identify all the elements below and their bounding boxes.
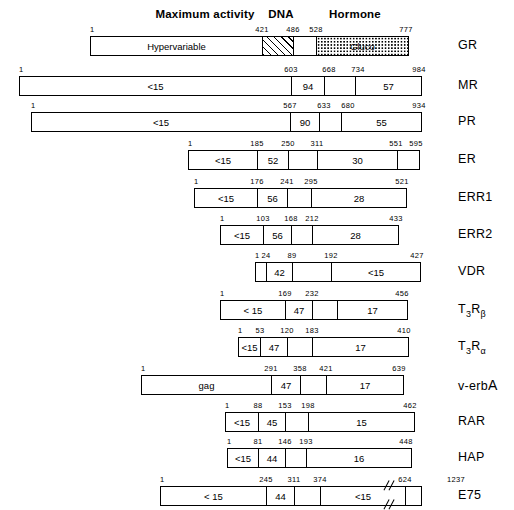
domain-segment: < 15 — [161, 487, 267, 505]
domain-segment: 15 — [309, 413, 414, 431]
domain-segment — [256, 263, 267, 281]
residue-tick: 311 — [288, 475, 301, 484]
column-header-maximum-activity: Maximum activity — [155, 8, 254, 20]
segment-label: 17 — [367, 305, 378, 316]
domain-segment: 47 — [261, 338, 288, 356]
receptor-label-HAP: HAP — [458, 450, 485, 464]
residue-tick: 1237 — [447, 475, 465, 484]
residue-tick: 183 — [305, 326, 318, 335]
domain-segment: 45 — [259, 413, 286, 431]
segment-label: 45 — [267, 417, 278, 428]
domain-segment: <15 — [189, 151, 258, 169]
residue-tick: 1 — [160, 475, 164, 484]
domain-bar-RAR: <154515 — [225, 412, 415, 432]
domain-segment: <15 — [239, 338, 261, 356]
residue-tick: 551 — [389, 139, 402, 148]
segment-label: <15 — [147, 81, 163, 92]
domain-bar-GR: HypervariableGluco — [90, 36, 409, 56]
residue-tick: 185 — [250, 139, 263, 148]
segment-label: 57 — [383, 81, 394, 92]
residue-tick: 103 — [256, 214, 269, 223]
segment-label: <15 — [368, 267, 384, 278]
domain-segment: 17 — [327, 376, 403, 394]
residue-tick: 311 — [311, 139, 324, 148]
segment-label: 52 — [268, 155, 279, 166]
domain-segment — [288, 338, 313, 356]
domain-segment: 56 — [258, 189, 288, 207]
domain-segment: 42 — [267, 263, 293, 281]
residue-tick: 88 — [254, 401, 263, 410]
domain-bar-T3Ralpha: <154717 — [238, 337, 409, 357]
residue-tick: 1 — [227, 437, 231, 446]
domain-segment: 16 — [307, 449, 411, 467]
residue-tick: 250 — [281, 139, 294, 148]
residue-tick: 456 — [395, 289, 408, 298]
residue-tick: 1 — [238, 326, 242, 335]
segment-label: 44 — [267, 453, 278, 464]
domain-segment: <15 — [228, 449, 259, 467]
domain-segment — [320, 113, 342, 131]
domain-segment: 94 — [292, 77, 325, 95]
domain-segment: 17 — [313, 338, 408, 356]
segment-label: <15 — [153, 117, 169, 128]
domain-segment — [301, 376, 327, 394]
domain-bar-MR: <159457 — [19, 76, 422, 96]
segment-label: 94 — [303, 81, 314, 92]
segment-label: Gluco — [349, 41, 376, 52]
residue-tick: 448 — [399, 437, 412, 446]
domain-segment — [295, 487, 321, 505]
residue-tick: 603 — [284, 65, 297, 74]
domain-segment: 17 — [338, 301, 407, 319]
residue-tick: 421 — [319, 364, 332, 373]
residue-tick: 291 — [264, 364, 277, 373]
residue-tick: 358 — [293, 364, 306, 373]
residue-tick: 212 — [305, 214, 318, 223]
receptor-label-RAR: RAR — [458, 414, 485, 428]
domain-segment — [313, 301, 338, 319]
residue-tick: 193 — [299, 437, 312, 446]
receptor-label-ER: ER — [458, 152, 476, 166]
residue-tick: 1 — [19, 65, 23, 74]
domain-segment: Gluco — [317, 37, 408, 55]
residue-tick: 668 — [322, 65, 335, 74]
domain-segment — [294, 37, 317, 55]
segment-label: 16 — [354, 453, 365, 464]
column-header-hormone: Hormone — [329, 8, 381, 20]
domain-bar-HAP: <154416 — [227, 448, 412, 468]
domain-segment: < 15 — [221, 301, 286, 319]
segment-label: <15 — [355, 491, 371, 502]
domain-segment: 44 — [259, 449, 286, 467]
residue-tick: 1 — [194, 177, 198, 186]
domain-segment: 30 — [318, 151, 398, 169]
domain-segment — [286, 413, 309, 431]
domain-segment: 90 — [291, 113, 320, 131]
residue-tick: 1 — [31, 101, 35, 110]
residue-tick: 1 — [141, 364, 145, 373]
residue-tick: 198 — [301, 401, 314, 410]
segment-label: <15 — [235, 453, 251, 464]
domain-bar-ERR1: <155628 — [194, 188, 407, 208]
receptor-label-GR: GR — [458, 38, 477, 52]
residue-tick: 421 — [255, 25, 268, 34]
segment-label: gag — [199, 380, 215, 391]
receptor-label-ERR2: ERR2 — [458, 227, 493, 241]
domain-segment: 47 — [272, 376, 301, 394]
domain-bar-v-erbA: gag4717 — [141, 375, 404, 395]
residue-tick: 984 — [412, 65, 425, 74]
receptor-label-v-erbA: v-erbA — [458, 377, 498, 393]
residue-tick: 633 — [317, 101, 330, 110]
residue-tick: 639 — [392, 364, 405, 373]
residue-tick: 567 — [283, 101, 296, 110]
residue-tick: 24 — [262, 251, 271, 260]
residue-tick: 433 — [389, 214, 402, 223]
domain-segment: <15 — [332, 263, 420, 281]
segment-label: 47 — [294, 305, 305, 316]
residue-tick: 153 — [278, 401, 291, 410]
residue-tick: 410 — [397, 326, 410, 335]
domain-segment: 57 — [356, 77, 421, 95]
residue-tick: 777 — [399, 25, 412, 34]
domain-segment: 55 — [342, 113, 421, 131]
domain-segment — [292, 226, 313, 244]
segment-label: 56 — [267, 193, 278, 204]
segment-label: 90 — [300, 117, 311, 128]
